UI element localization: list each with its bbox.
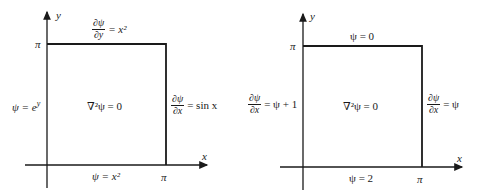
top-boundary-condition: ψ = 0 xyxy=(350,31,374,42)
diagram-lines xyxy=(0,0,477,196)
y-axis-label: y xyxy=(56,10,61,21)
x-axis-label: x xyxy=(457,153,462,164)
y-axis-label: y xyxy=(310,11,315,22)
pi-x-tick: π xyxy=(161,172,167,183)
pi-y-tick: π xyxy=(35,39,41,50)
laplace-equation: ∇²ψ = 0 xyxy=(87,101,122,112)
left-boundary-condition: ∂ψ∂x = ψ + 1 xyxy=(248,93,297,115)
pi-x-tick: π xyxy=(417,174,423,185)
x-axis-label: x xyxy=(202,151,207,162)
pi-y-tick: π xyxy=(290,41,296,52)
top-boundary-condition: ∂ψ∂y = x² xyxy=(92,18,127,40)
right-boundary-condition: ∂ψ∂x = ψ xyxy=(427,93,459,115)
left-boundary-condition: ψ = ey xyxy=(12,100,40,113)
right-boundary-condition: ∂ψ∂x = sin x xyxy=(171,94,217,116)
bottom-boundary-condition: ψ = x² xyxy=(92,171,120,182)
bottom-boundary-condition: ψ = 2 xyxy=(349,173,373,184)
laplace-equation: ∇²ψ = 0 xyxy=(343,101,378,112)
